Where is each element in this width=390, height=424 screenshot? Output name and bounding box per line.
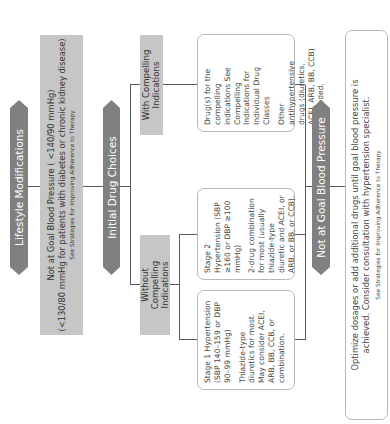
adherence-link-2[interactable]: See Strategies for Improving Adherence t… — [375, 71, 382, 379]
stage2-body: 2-drug combination for most (usually thi… — [247, 195, 296, 273]
without-compelling-box: Without Compelling Indications — [140, 235, 170, 335]
connector-line — [120, 186, 130, 187]
connector-line — [305, 186, 312, 187]
goal-line-1: Not at Goal Blood Pressure ( <140/90 mmH… — [46, 89, 57, 280]
compelling-drugs-box: Drug(s) for the compelling indications S… — [197, 34, 295, 132]
initial-label: Initial Drug Choices — [106, 136, 118, 238]
connector-line — [179, 339, 197, 340]
connector-line — [130, 85, 131, 285]
lifestyle-modifications-step: Lifestyle Modifications — [10, 100, 28, 275]
connector-line — [28, 186, 40, 187]
connector-line — [170, 284, 179, 285]
optimize-box: Optimize dosages or add additional drugs… — [345, 30, 388, 420]
without-label: Without Compelling Indications — [140, 243, 171, 327]
connector-line — [83, 186, 103, 187]
not-at-goal-label: Not at Goal Blood Pressure — [315, 117, 327, 258]
goal-line-2: (<130/80 mmHg for patients with diabetes… — [57, 38, 68, 331]
optimize-text: Optimize dosages or add additional drugs… — [350, 71, 371, 379]
not-at-goal-bp-box: Not at Goal Blood Pressure ( <140/90 mmH… — [40, 35, 83, 335]
connector-line — [163, 84, 197, 85]
compelling-title: Drug(s) for the compelling indications S… — [203, 41, 272, 125]
stage1-box: Stage 1 Hypertension (SBP 140–159 or DBP… — [197, 290, 295, 390]
connector-line — [179, 235, 180, 340]
connector-line — [130, 284, 140, 285]
connector-line — [330, 186, 345, 187]
with-label: With Compelling Indications — [142, 47, 162, 123]
adherence-link[interactable]: See Strategies for Improving Adherence t… — [69, 110, 76, 259]
stage1-body: Thiazide-type diuretics for most. May co… — [238, 297, 287, 383]
connector-line — [130, 84, 140, 85]
lifestyle-label: Lifestyle Modifications — [13, 129, 25, 246]
connector-line — [179, 234, 197, 235]
flowchart: Lifestyle Modifications Not at Goal Bloo… — [0, 0, 390, 424]
stage2-box: Stage 2 Hypertension (SBP ≥160 or DBP ≥1… — [197, 188, 295, 280]
connector-line — [295, 339, 305, 340]
not-at-goal-bp-step: Not at Goal Blood Pressure — [312, 100, 330, 275]
with-compelling-box: With Compelling Indications — [140, 35, 163, 135]
initial-drug-choices-step: Initial Drug Choices — [103, 100, 120, 275]
stage2-title: Stage 2 Hypertension (SBP ≥160 or DBP ≥1… — [203, 195, 242, 273]
stage1-title: Stage 1 Hypertension (SBP 140–159 or DBP… — [203, 297, 233, 383]
